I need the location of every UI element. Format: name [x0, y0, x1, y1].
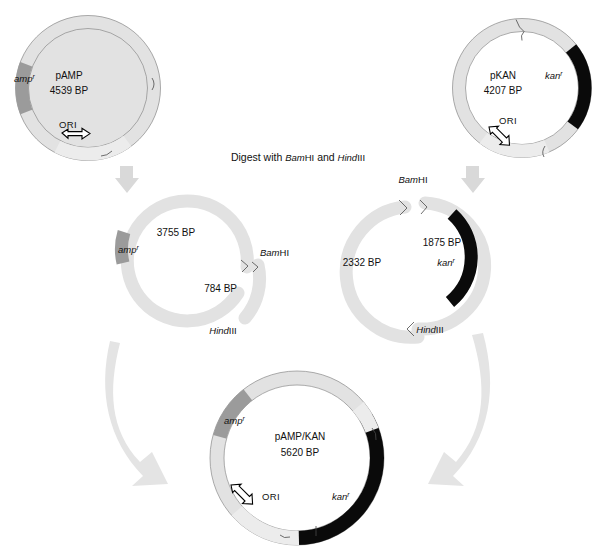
fragment-group-kan-digest: 2332 BP 1875 BP kanr BamHI HindIII	[343, 174, 485, 337]
plasmid-pamp: pAMP 4539 BP ampr ORI	[14, 16, 161, 161]
fragment-2332-arc	[346, 207, 418, 337]
fragment-1875-gene: kanr	[437, 257, 455, 269]
pkan-kan-label: kanr	[545, 70, 563, 82]
cropped-caption	[0, 551, 597, 557]
pkan-name: pKAN	[490, 70, 516, 81]
fragment-1875-size: 1875 BP	[423, 237, 462, 248]
fragment-1875	[407, 200, 485, 336]
arrow-kan-fragment-to-ligation	[428, 333, 490, 486]
fragment-group-amp-digest: 3755 BP ampr 784 BP BamHI HindIII	[118, 201, 289, 336]
pampkan-inner-edge	[224, 385, 370, 531]
pampkan-size: 5620 BP	[281, 447, 320, 458]
pampkan-name: pAMP/KAN	[275, 431, 326, 442]
kan-digest-bamhi-label: BamHI	[398, 174, 427, 185]
pampkan-kan-label: kanr	[332, 491, 350, 503]
kan-digest-hindiii-label: HindIII	[416, 324, 443, 335]
digest-step-label: Digest with BamHI and HindIII	[231, 151, 365, 163]
fragment-3755-size: 3755 BP	[157, 227, 196, 238]
pamp-amp-label: ampr	[14, 73, 35, 85]
arrow-amp-fragment-to-ligation	[105, 341, 168, 486]
fragment-784-size: 784 BP	[204, 283, 237, 294]
pkan-size: 4207 BP	[484, 85, 523, 96]
amp-digest-bamhi-label: BamHI	[260, 247, 289, 258]
plasmid-pampkan: pAMP/KAN 5620 BP ampr kanr ORI	[210, 371, 384, 545]
fragment-2332-size: 2332 BP	[343, 257, 382, 268]
pamp-name: pAMP	[55, 70, 83, 81]
plasmid-pkan: pKAN 4207 BP kanr ORI	[453, 19, 592, 158]
fragment-2332	[346, 200, 418, 337]
pamp-size: 4539 BP	[50, 85, 89, 96]
amp-digest-hindiii-label: HindIII	[209, 325, 236, 336]
pampkan-amp-label: ampr	[224, 415, 245, 427]
fragment-3755	[121, 201, 248, 321]
arrow-pamp-to-digest	[115, 166, 139, 193]
fragment-3755-gene: ampr	[118, 244, 139, 256]
pampkan-ori-label: ORI	[262, 491, 280, 502]
plasmid-cloning-diagram: pAMP 4539 BP ampr ORI pKAN 4207 BP kanr …	[0, 0, 597, 557]
fragment-3755-arc	[127, 201, 247, 321]
pkan-ori-label: ORI	[499, 115, 517, 126]
arrow-pkan-to-digest	[461, 166, 485, 193]
